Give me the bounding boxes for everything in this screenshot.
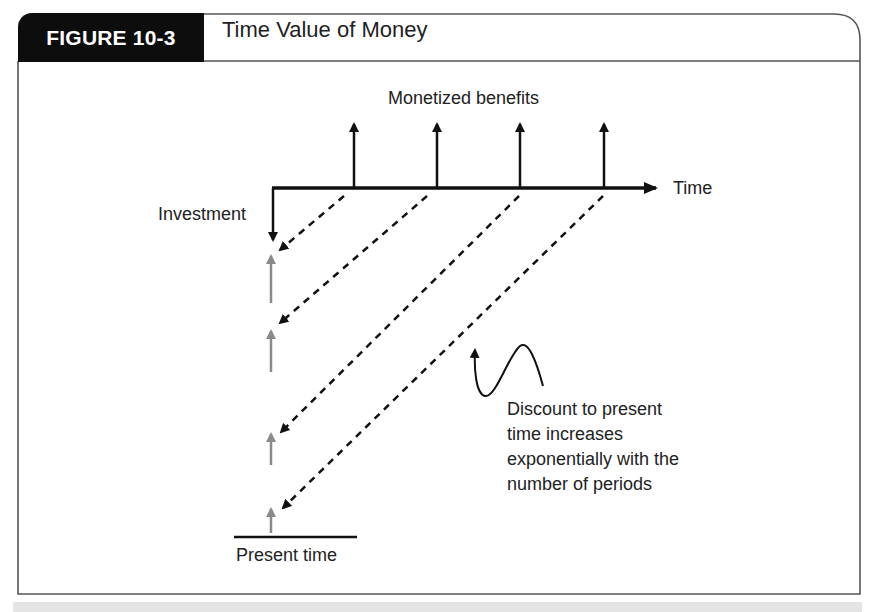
benefits-label: Monetized benefits <box>388 88 539 109</box>
investment-label: Investment <box>158 204 246 225</box>
time-axis-label: Time <box>673 178 712 199</box>
figure-title: Time Value of Money <box>222 17 427 43</box>
benefit-arrows <box>354 124 604 188</box>
present-time-label: Present time <box>236 545 337 566</box>
annotation-pointer <box>475 345 543 396</box>
figure-number-tab: FIGURE 10-3 <box>18 13 204 62</box>
discount-annotation: Discount to present time increases expon… <box>507 397 679 497</box>
bottom-divider-bar <box>13 602 862 612</box>
annotation-line: exponentially with the <box>507 447 679 472</box>
annotation-line: number of periods <box>507 472 679 497</box>
annotation-line: time increases <box>507 422 679 447</box>
annotation-line: Discount to present <box>507 397 679 422</box>
